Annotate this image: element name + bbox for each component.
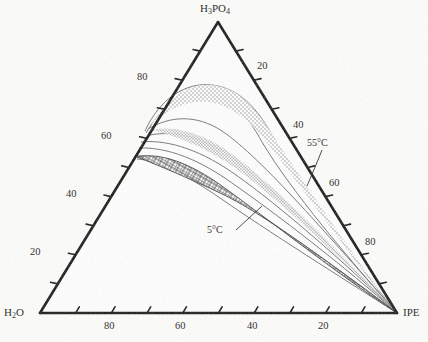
ticklabel-bottom-20: 20 <box>318 320 329 331</box>
vertex-h3po4-h: H <box>200 2 208 14</box>
ticklabel-right-20: 20 <box>257 60 268 71</box>
vertex-h2o-o: O <box>16 306 24 318</box>
ticklabel-bottom-60: 60 <box>175 320 186 331</box>
ticklabel-left-60: 60 <box>101 130 112 141</box>
ticklabel-left-80: 80 <box>137 71 148 82</box>
ticklabel-right-60: 60 <box>329 177 340 188</box>
annotation-5c-label: 5°C <box>207 224 223 235</box>
ticklabel-bottom-80: 80 <box>104 320 115 331</box>
vertex-h2o-h: H <box>4 306 12 318</box>
annotation-55c-label: 55°C <box>307 137 328 148</box>
vertex-label-h2o: H2O <box>4 306 24 320</box>
ticklabel-left-40: 40 <box>66 188 77 199</box>
vertex-h3po4-sub4: 4 <box>226 7 230 16</box>
ternary-triangle-field <box>40 22 397 313</box>
ticklabel-left-20: 20 <box>30 246 41 257</box>
ticklabel-right-80: 80 <box>365 236 376 247</box>
vertex-h3po4-po: PO <box>212 2 226 14</box>
vertex-label-h3po4: H3PO4 <box>200 2 230 16</box>
ticklabel-right-40: 40 <box>293 119 304 130</box>
vertex-label-ipe: IPE <box>403 306 420 318</box>
ternary-phase-diagram <box>0 0 428 342</box>
ticklabel-bottom-40: 40 <box>247 320 258 331</box>
